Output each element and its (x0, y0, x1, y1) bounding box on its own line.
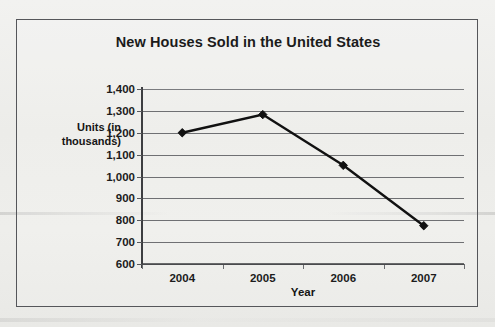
y-axis-tick-label: 1,100 (106, 149, 135, 161)
chart-title: New Houses Sold in the United States (17, 34, 479, 50)
y-axis-tick-label: 1,200 (106, 127, 135, 139)
y-axis-tick-label: 600 (116, 258, 135, 270)
x-axis-tick-label: 2007 (411, 272, 437, 284)
chart-frame: New Houses Sold in the United States Uni… (16, 19, 478, 307)
y-axis-tick-label: 1,300 (106, 105, 135, 117)
y-axis-tick-label: 900 (116, 192, 135, 204)
y-axis-tick-label: 800 (116, 214, 135, 226)
y-axis-tick-label: 1,400 (106, 83, 135, 95)
x-axis-tick (464, 264, 465, 269)
plot-area: 1,4001,3001,2001,1001,000900800700600 20… (142, 89, 464, 264)
series-line (182, 115, 424, 226)
x-axis-tick-label: 2005 (250, 272, 276, 284)
x-axis-title: Year (142, 286, 464, 298)
line-series (142, 89, 464, 264)
data-point-marker (178, 129, 186, 137)
x-axis-tick-label: 2006 (330, 272, 356, 284)
x-axis-tick (303, 264, 304, 269)
x-axis-tick (384, 264, 385, 269)
x-axis-tick (142, 264, 143, 269)
y-axis-tick-label: 1,000 (106, 171, 135, 183)
x-axis-tick (223, 264, 224, 269)
y-axis-tick-label: 700 (116, 236, 135, 248)
x-axis-tick-label: 2004 (169, 272, 195, 284)
